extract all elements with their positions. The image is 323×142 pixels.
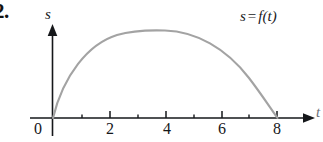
- x-axis-label: t: [316, 104, 320, 121]
- x-tick-label-2: 2: [100, 120, 120, 138]
- figure-container: 2. s t s=f(t) 0 2 4 6 8: [0, 0, 323, 142]
- curve-equation-label: s=f(t): [240, 8, 277, 25]
- curve-s-of-t: [53, 30, 278, 118]
- y-axis-arrowhead: [48, 24, 58, 36]
- y-axis-label: s: [45, 6, 51, 23]
- x-tick-label-4: 4: [157, 120, 177, 138]
- x-axis-arrowhead: [303, 113, 315, 123]
- curve-equation-rhs: f(t): [258, 8, 276, 24]
- x-tick-label-8: 8: [267, 120, 287, 138]
- x-tick-label-6: 6: [212, 120, 232, 138]
- x-tick-label-0: 0: [28, 120, 48, 138]
- curve-equation-operator: =: [246, 8, 258, 24]
- curve-equation-lhs: s: [240, 8, 246, 24]
